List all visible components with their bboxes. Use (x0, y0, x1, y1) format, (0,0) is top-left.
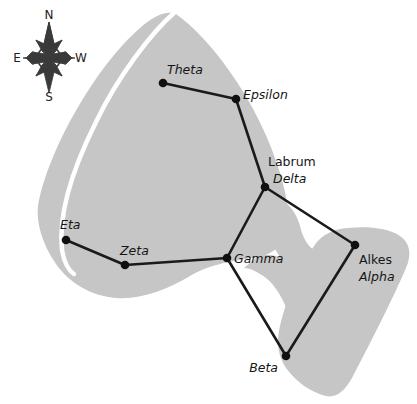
compass-rose: N S E W (13, 8, 87, 104)
star-proper-name-alkes: Alkes (359, 252, 392, 267)
star-dot-eta (62, 236, 71, 245)
star-dot-epsilon (232, 95, 241, 104)
star-dot-alpha (351, 241, 360, 250)
star-greek-label-delta: Delta (273, 171, 306, 186)
star-dot-delta (261, 183, 270, 192)
compass-north-label: N (45, 8, 54, 22)
star-dot-theta (159, 79, 168, 88)
star-dot-gamma (223, 254, 232, 263)
star-greek-label-epsilon: Epsilon (243, 87, 288, 102)
compass-east-label: E (13, 51, 21, 65)
compass-west-label: W (75, 51, 87, 65)
star-greek-label-beta: Beta (249, 360, 278, 375)
star-greek-label-alpha: Alpha (358, 269, 395, 284)
compass-south-label: S (45, 90, 53, 104)
star-dot-beta (282, 352, 291, 361)
star-greek-label-gamma: Gamma (234, 251, 283, 266)
crater-cup-silhouette (38, 12, 410, 396)
star-proper-name-labrum: Labrum (268, 154, 316, 169)
constellation-star-chart: ThetaEpsilonLabrumDeltaAlkesAlphaBetaGam… (0, 0, 417, 404)
star-greek-label-zeta: Zeta (119, 243, 149, 258)
star-greek-label-eta: Eta (60, 217, 80, 232)
star-dot-zeta (121, 261, 130, 270)
star-greek-label-theta: Theta (167, 62, 203, 77)
